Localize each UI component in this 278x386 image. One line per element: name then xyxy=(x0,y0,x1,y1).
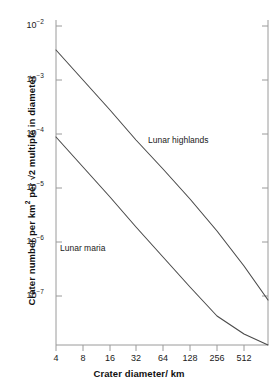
x-tick-label-64: 64 xyxy=(148,353,178,363)
plot-canvas xyxy=(0,0,278,386)
x-tick-label-32: 32 xyxy=(121,353,151,363)
annotation-lunar-maria: Lunar maria xyxy=(60,243,105,253)
sqrt2-symbol: √2 xyxy=(27,170,37,180)
y-tick-exp-5: −6 xyxy=(37,234,44,241)
crater-size-frequency-chart: 10−2 10−3 10−4 10−5 10−6 10−7 4 8 16 32 … xyxy=(0,0,278,386)
y-tick-marks-right xyxy=(262,26,268,296)
y-axis-title-superscript: 2 xyxy=(24,201,31,205)
axis-lines xyxy=(56,20,268,345)
y-axis-title-part3: multiple in diameter xyxy=(26,75,37,169)
x-axis-title: Crater diameter/ km xyxy=(0,368,278,379)
annotation-lunar-highlands: Lunar highlands xyxy=(148,135,209,145)
curve-lunar-highlands xyxy=(56,50,268,300)
x-tick-label-128: 128 xyxy=(175,353,205,363)
y-axis-title: Crater number per km2 per √2 multiple in… xyxy=(26,41,37,341)
x-tick-label-4: 4 xyxy=(41,353,71,363)
y-tick-exp-1: −2 xyxy=(37,18,44,25)
y-tick-label-1e-2: 10−2 xyxy=(10,20,44,30)
y-tick-marks xyxy=(56,26,62,296)
y-tick-exp-2: −3 xyxy=(37,72,44,79)
y-axis-title-part1: Crater number per km xyxy=(26,204,37,305)
x-tick-label-512: 512 xyxy=(229,353,259,363)
y-tick-exp-4: −5 xyxy=(37,180,44,187)
y-tick-exp-6: −7 xyxy=(37,288,44,295)
x-tick-marks xyxy=(56,345,244,351)
y-tick-exp-3: −4 xyxy=(37,126,44,133)
x-tick-label-8: 8 xyxy=(68,353,98,363)
y-axis-title-part2: per xyxy=(26,180,37,201)
x-tick-label-256: 256 xyxy=(202,353,232,363)
